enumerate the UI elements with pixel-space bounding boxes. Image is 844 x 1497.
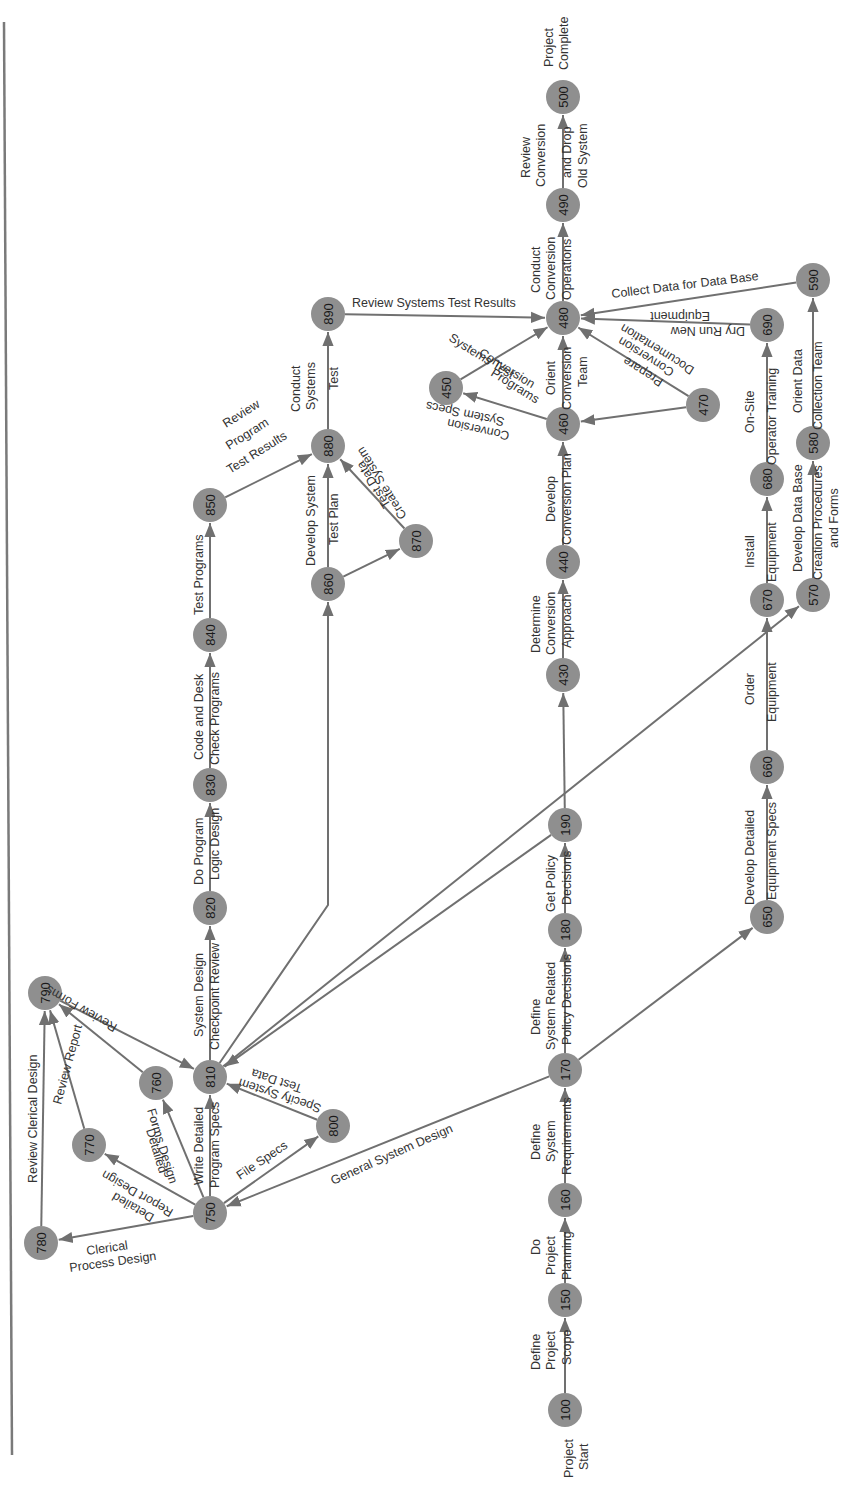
node-190: 190 <box>548 808 582 842</box>
edge-label: Project <box>544 1331 558 1370</box>
edge-label: Develop Detailed <box>743 810 757 905</box>
node-840: 840 <box>193 618 227 652</box>
edge-label: Do <box>529 1239 543 1255</box>
edge-label: Equipment Specs <box>765 802 779 900</box>
edge-810-570 <box>223 606 799 1066</box>
edge-470-460 <box>581 407 686 421</box>
node-780: 780 <box>24 1226 58 1260</box>
edge-label: Collect Data for Data Base <box>611 269 760 301</box>
pert-network-diagram: 1001501601701801904304404504604704804905… <box>0 0 844 1497</box>
edge-860-870 <box>343 549 400 577</box>
node-770: 770 <box>72 1128 106 1162</box>
edge-label: Systems <box>304 362 318 410</box>
node-810: 810 <box>193 1060 227 1094</box>
node-number: 580 <box>806 432 821 454</box>
node-580: 580 <box>796 426 830 460</box>
edge-label: Code and Desk <box>192 673 206 760</box>
edge-label: Check Programs <box>208 672 222 765</box>
edge-label: Logic Design <box>208 808 222 880</box>
edge-label: Creation Procedures <box>811 465 825 580</box>
edge-label: Develop System <box>304 475 318 566</box>
edge-label: Develop Data Base <box>791 464 805 572</box>
edge-label: Program Specs <box>208 1102 222 1188</box>
node-number: 470 <box>696 394 711 416</box>
edge-label: Equipment <box>765 662 779 722</box>
node-160: 160 <box>548 1183 582 1217</box>
node-number: 880 <box>321 435 336 457</box>
node-850: 850 <box>193 488 227 522</box>
node-430: 430 <box>546 658 580 692</box>
node-460: 460 <box>546 407 580 441</box>
edge-label: Develop <box>544 476 558 522</box>
node-170: 170 <box>548 1053 582 1087</box>
edge-190-810 <box>225 835 551 1067</box>
edge-label: Operations <box>560 239 574 300</box>
edge-label: Get Policy <box>544 854 558 912</box>
edge-label: Do Program <box>192 818 206 885</box>
node-number: 820 <box>203 897 218 919</box>
node-number: 780 <box>34 1232 49 1254</box>
edge-label: Conduct <box>529 246 543 293</box>
node-number: 860 <box>321 573 336 595</box>
edge-label: Conversion <box>544 592 558 655</box>
node-870: 870 <box>399 524 433 558</box>
node-590: 590 <box>796 263 830 297</box>
edge-label: Checkpoint Review <box>208 942 222 1050</box>
node-number: 570 <box>806 584 821 606</box>
edge-label: Review Report <box>50 1022 85 1105</box>
node-number: 460 <box>556 413 571 435</box>
edge-label: Conversion <box>560 347 574 410</box>
edge-170-650 <box>579 928 753 1060</box>
node-680: 680 <box>750 462 784 496</box>
edge-label: Test Programs <box>192 534 206 615</box>
node-number: 440 <box>556 551 571 573</box>
node-number: 150 <box>558 1289 573 1311</box>
node-150: 150 <box>548 1283 582 1317</box>
edge-label: Equipment <box>765 522 779 582</box>
edge-label: Decisions <box>560 851 574 905</box>
node-number: 680 <box>760 468 775 490</box>
node-number: 750 <box>203 1202 218 1224</box>
node-number: 660 <box>760 756 775 778</box>
node-number: 800 <box>326 1115 341 1137</box>
node-880: 880 <box>311 429 345 463</box>
end-label-line-2: Complete <box>557 16 571 70</box>
node-number: 830 <box>203 774 218 796</box>
edge-label: Review Clerical Design <box>26 1054 40 1183</box>
edge-label: Conversion Plan <box>560 453 574 545</box>
node-number: 100 <box>558 1399 573 1421</box>
node-800: 800 <box>316 1109 350 1143</box>
edge-label: Conversion <box>544 237 558 300</box>
edge-label: Requirements <box>560 1097 574 1175</box>
node-number: 760 <box>149 1072 164 1094</box>
edge-810-860 <box>220 602 328 1063</box>
edge-label: On-Site <box>743 391 757 433</box>
edge-label: Review <box>519 136 533 178</box>
node-number: 480 <box>556 307 571 329</box>
edge-label: Operator Training <box>765 368 779 465</box>
node-480: 480 <box>546 301 580 335</box>
edge-label: Define <box>529 999 543 1035</box>
edge-label: Determine <box>529 595 543 653</box>
edge-label: System <box>544 1120 558 1162</box>
edge-label: Install <box>743 535 757 568</box>
edge-label: Test Plan <box>327 494 341 545</box>
edge-780-790 <box>41 1011 44 1226</box>
edge-label: and Drop <box>560 127 574 178</box>
edge-label: Conversion <box>534 124 548 187</box>
edge-label: Policy Decisions <box>560 954 574 1045</box>
edge-label: Define <box>529 1124 543 1160</box>
node-820: 820 <box>193 891 227 925</box>
edge-label: Test <box>327 367 341 390</box>
node-number: 870 <box>409 530 424 552</box>
edge-label: Equipment <box>650 309 710 323</box>
node-number: 810 <box>203 1066 218 1088</box>
edge-label: Old System <box>576 123 590 188</box>
edge-label: Orient Data <box>791 349 805 413</box>
edge-label: Review Systems Test Results <box>352 296 516 310</box>
node-500: 500 <box>546 80 580 114</box>
node-number: 850 <box>203 494 218 516</box>
edge-190-430 <box>563 693 565 808</box>
node-690: 690 <box>750 308 784 342</box>
node-number: 690 <box>760 314 775 336</box>
